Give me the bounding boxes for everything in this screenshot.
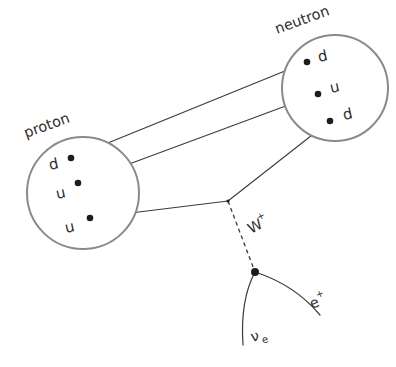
electron-neutrino-label: ν [249,327,261,344]
w-boson-line [228,201,255,272]
feynman-diagram: proton neutron d u u d u d W + e + ν e [0,0,396,367]
neutron-label: neutron [273,2,332,36]
proton-quark-dot-u2 [87,215,94,222]
proton-quark-dot-d [68,155,75,162]
proton-label: proton [22,110,72,141]
neutron-quark-dot-d2 [327,118,334,125]
proton-quark-dot-u1 [75,180,82,187]
proton-circle [27,137,139,249]
weak-vertex-upper [226,199,229,202]
positron-label-group: e + [306,287,329,312]
weak-vertex-lower [251,268,259,276]
electron-neutrino-flavor-subscript: e [260,333,269,345]
w-boson-label-group: W + [243,209,271,237]
positron-line [255,272,320,315]
neutron-quark-dot-u [315,91,322,98]
diagram-canvas: proton neutron d u u d u d W + e + ν e [0,0,396,367]
electron-neutrino-label-group: ν e [249,325,269,347]
neutron-quark-dot-d1 [304,59,311,66]
